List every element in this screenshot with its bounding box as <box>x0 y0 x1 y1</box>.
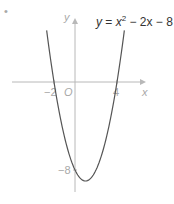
chart: • x y O −24−8 y = x2 − 2x − 8 <box>0 0 174 204</box>
x-axis-label: x <box>141 86 148 98</box>
corner-dot: • <box>4 5 8 17</box>
chart-title: y = x2 − 2x − 8 <box>95 14 173 29</box>
y-tick-label: −8 <box>58 164 71 176</box>
x-axis-arrow <box>140 79 146 85</box>
title-eq: = <box>102 15 116 29</box>
y-axis-label: y <box>63 11 71 23</box>
origin-label: O <box>64 86 73 98</box>
parabola-curve <box>47 30 125 181</box>
title-rest: − 2x − 8 <box>126 15 173 29</box>
y-axis-arrow <box>72 18 78 24</box>
